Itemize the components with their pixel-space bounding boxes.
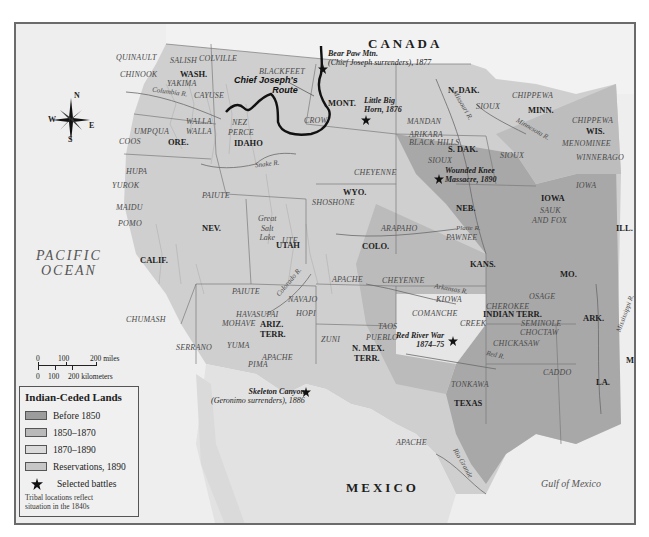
state-colo: COLO. bbox=[362, 242, 389, 251]
tribe-iowa: IOWA bbox=[576, 182, 596, 190]
tribe-sauk: SAUK bbox=[540, 207, 561, 215]
tribe-pima: PIMA bbox=[248, 361, 268, 369]
feature-black-hills: BLACK HILLS bbox=[409, 139, 459, 147]
label-chief-josephs-route: Chief Joseph's Route bbox=[234, 76, 298, 96]
state-neb: NEB. bbox=[456, 204, 476, 213]
state-mo: MO. bbox=[560, 270, 577, 279]
state-la: LA. bbox=[596, 378, 610, 387]
tribe-crow: CROW bbox=[304, 117, 327, 125]
state-iowa: IOWA bbox=[541, 194, 565, 203]
tribe-yuma: YUMA bbox=[227, 342, 250, 350]
map-frame: N S W E CANADA MEXICO PACIFIC OCEAN Gulf… bbox=[14, 22, 636, 525]
battle-star-icon bbox=[361, 115, 371, 125]
legend-note: Tribal locations reflect situation in th… bbox=[25, 494, 133, 511]
tribe-chumash: CHUMASH bbox=[126, 316, 166, 324]
tribe-tonkawa: TONKAWA bbox=[451, 381, 489, 389]
compass-n: N bbox=[74, 92, 80, 100]
tribe-osage: OSAGE bbox=[529, 293, 555, 301]
tribe-taos: TAOS bbox=[378, 323, 397, 331]
compass-w: W bbox=[48, 116, 56, 124]
tribe-hupa: HUPA bbox=[126, 168, 147, 176]
tribe-sioux-3: SIOUX bbox=[500, 152, 524, 160]
label-gulf-of-mexico: Gulf of Mexico bbox=[541, 479, 601, 489]
tribe-choctaw: CHOCTAW bbox=[520, 329, 559, 337]
tribe-cheyenne-2: CHEYENNE bbox=[382, 277, 425, 285]
tribe-apache-3: APACHE bbox=[396, 439, 427, 447]
state-mont: MONT. bbox=[328, 99, 356, 108]
tribe-mandan: MANDAN bbox=[407, 118, 441, 126]
tribe-shoshone: SHOSHONE bbox=[312, 199, 355, 207]
tribe-yakima: YAKIMA bbox=[167, 80, 197, 88]
tribe-paiute-1: PAIUTE bbox=[202, 192, 230, 200]
tribe-coos: COOS bbox=[119, 138, 141, 146]
tribe-pawnee: PAWNEE bbox=[446, 234, 477, 242]
tribe-mohave: MOHAVE bbox=[222, 320, 256, 328]
tribe-menominee: MENOMINEE bbox=[562, 140, 611, 148]
tribe-zuni: ZUNI bbox=[321, 336, 340, 344]
legend-item-1870-1890: 1870–1890 bbox=[25, 441, 133, 458]
tribe-and-fox: AND FOX bbox=[532, 217, 567, 225]
tribe-chinook: CHINOOK bbox=[120, 71, 157, 79]
battle-star-icon bbox=[31, 478, 43, 490]
legend-item-battles: Selected battles bbox=[25, 475, 133, 492]
legend-item-reservations: Reservations, 1890 bbox=[25, 458, 133, 475]
tribe-cherokee: CHEROKEE bbox=[486, 303, 529, 311]
tribe-umpqua: UMPQUA bbox=[134, 128, 169, 136]
battle-bear-paw: Bear Paw Mtn. (Chief Joseph surrenders),… bbox=[328, 49, 431, 67]
state-ore: ORE. bbox=[168, 138, 189, 147]
tribe-creek: CREEK bbox=[460, 320, 486, 328]
legend-swatch bbox=[25, 445, 47, 454]
tribe-kiowa: KIOWA bbox=[436, 296, 462, 304]
tribe-chickasaw: CHICKASAW bbox=[493, 340, 539, 348]
tribe-seminole: SEMINOLE bbox=[521, 320, 561, 328]
tribe-yurok: YUROK bbox=[112, 182, 139, 190]
tribe-chippewa-1: CHIPPEWA bbox=[512, 92, 553, 100]
legend-swatch bbox=[25, 462, 47, 471]
tribe-ute: UTE bbox=[282, 237, 298, 245]
state-texas: TEXAS bbox=[454, 399, 482, 408]
legend: Indian-Ceded Lands Before 1850 1850–1870… bbox=[19, 386, 139, 517]
tribe-cheyenne-1: CHEYENNE bbox=[354, 169, 397, 177]
tribe-navajo: NAVAJO bbox=[288, 296, 318, 304]
legend-item-1850-1870: 1850–1870 bbox=[25, 424, 133, 441]
tribe-quinault: QUINAULT bbox=[116, 54, 157, 62]
tribe-walla-2: WALLA bbox=[186, 128, 212, 136]
legend-title: Indian-Ceded Lands bbox=[25, 391, 133, 403]
legend-swatch bbox=[25, 428, 47, 437]
river-platte: Platte R. bbox=[456, 225, 481, 232]
tribe-paiute-2: PAIUTE bbox=[232, 288, 260, 296]
feature-great-salt-lake: Great Salt Lake bbox=[258, 214, 276, 243]
tribe-arapaho: ARAPAHO bbox=[381, 225, 417, 233]
tribe-sioux-1: SIOUX bbox=[476, 103, 500, 111]
tribe-serrano: SERRANO bbox=[176, 344, 212, 352]
label-pacific-ocean: PACIFIC OCEAN bbox=[36, 248, 102, 279]
tribe-cayuse: CAYUSE bbox=[194, 92, 224, 100]
tribe-nez: NEZ bbox=[232, 119, 247, 127]
legend-swatch bbox=[25, 411, 47, 420]
battle-star-icon bbox=[448, 336, 458, 346]
state-minn: MINN. bbox=[528, 106, 554, 115]
state-ark: ARK. bbox=[583, 314, 604, 323]
tribe-colville: COLVILLE bbox=[199, 55, 237, 63]
tribe-walla-1: WALLA bbox=[186, 118, 212, 126]
state-ariz-2: TERR. bbox=[260, 330, 286, 339]
state-ill: ILL. bbox=[616, 224, 633, 233]
label-mexico: MEXICO bbox=[346, 481, 419, 494]
tribe-havasupai: HAVASUPAI bbox=[236, 311, 278, 319]
battle-red-river-war: Red River War 1874–75 bbox=[396, 331, 444, 349]
legend-item-before-1850: Before 1850 bbox=[25, 407, 133, 424]
state-nev: NEV. bbox=[202, 224, 221, 233]
tribe-comanche: COMANCHE bbox=[412, 310, 458, 318]
tribe-chippewa-2: CHIPPEWA bbox=[572, 117, 613, 125]
state-miss: MISS. bbox=[626, 356, 636, 365]
tribe-sioux-2: SIOUX bbox=[428, 157, 452, 165]
battle-star-icon bbox=[434, 174, 444, 184]
state-indian-terr: INDIAN TERR. bbox=[483, 310, 542, 319]
compass-s: S bbox=[68, 136, 72, 144]
state-wis: WIS. bbox=[586, 127, 605, 136]
state-calif: CALIF. bbox=[140, 256, 168, 265]
battle-skeleton-canyon: Skeleton Canyon (Geronimo surrenders), 1… bbox=[211, 387, 305, 405]
state-nmex-1: N. MEX. bbox=[352, 344, 384, 353]
tribe-pueblo: PUEBLO bbox=[366, 334, 398, 342]
battle-little-big-horn: Little Big Horn, 1876 bbox=[364, 96, 402, 114]
